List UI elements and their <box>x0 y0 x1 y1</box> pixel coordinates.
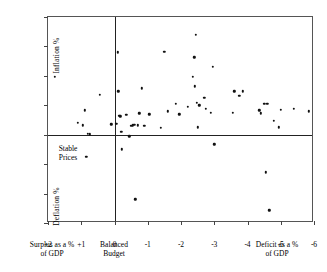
data-point <box>195 33 197 35</box>
data-point <box>238 95 240 97</box>
y-axis-tick <box>44 46 48 47</box>
data-point <box>148 113 150 115</box>
x-axis-tick <box>214 221 215 225</box>
x-axis-tick-label: -1 <box>145 241 151 249</box>
data-point <box>203 97 205 99</box>
x-axis-tick-label: -2 <box>178 241 184 249</box>
data-point <box>213 143 215 145</box>
x-axis-tick <box>115 221 116 225</box>
caption-surplus-line2: of GDP <box>12 249 92 258</box>
data-point <box>137 124 139 126</box>
data-point <box>163 50 165 52</box>
data-point <box>278 126 280 128</box>
plot-frame: Inflation % Deflation % Stable Prices 16… <box>47 16 313 222</box>
data-point <box>121 148 123 150</box>
data-point <box>117 51 119 53</box>
data-point <box>133 124 135 126</box>
x-axis-tick <box>181 221 182 225</box>
balanced-budget-line <box>115 17 116 221</box>
y-axis-tick <box>44 17 48 18</box>
x-axis-tick <box>314 221 315 225</box>
data-point <box>98 94 100 96</box>
data-point <box>119 115 121 117</box>
x-axis-tick <box>248 221 249 225</box>
x-axis-tick <box>281 221 282 225</box>
data-point <box>233 90 235 92</box>
data-point <box>120 131 122 133</box>
data-point <box>193 56 195 58</box>
y-axis-tick <box>44 76 48 77</box>
y-axis-tick <box>44 105 48 106</box>
data-point <box>125 114 127 116</box>
data-point <box>265 171 267 173</box>
data-point <box>231 111 233 113</box>
data-point <box>178 113 180 115</box>
x-axis-center-caption: Balanced Budget <box>86 240 142 258</box>
data-point <box>263 103 265 105</box>
data-point <box>191 75 193 77</box>
data-point <box>160 127 162 129</box>
plot-area: 1612840-4-8-12+2+10-1-2-3-4-5-6 <box>48 17 312 221</box>
data-point <box>141 87 143 89</box>
data-point <box>143 125 145 127</box>
data-point <box>82 124 84 126</box>
y-axis-tick <box>44 135 48 136</box>
data-point <box>211 66 213 68</box>
data-point <box>85 156 87 158</box>
data-point <box>77 122 79 124</box>
data-point <box>186 106 188 108</box>
data-point <box>268 209 270 211</box>
data-point <box>266 103 268 105</box>
y-axis-tick <box>44 194 48 195</box>
data-point <box>166 110 168 112</box>
x-axis-tick <box>148 221 149 225</box>
data-point <box>273 120 275 122</box>
data-point <box>117 90 119 92</box>
data-point <box>196 126 198 128</box>
caption-deficit-line2: of GDP <box>237 249 317 258</box>
x-axis-tick <box>48 221 49 225</box>
x-axis-tick <box>81 221 82 225</box>
caption-deficit-line1: Deficit as a % <box>237 240 317 249</box>
data-point <box>308 110 310 112</box>
data-point <box>260 112 262 114</box>
y-axis-tick <box>44 164 48 165</box>
data-point <box>198 104 200 106</box>
data-point <box>241 90 243 92</box>
x-axis-right-caption: Deficit as a % of GDP <box>237 240 317 258</box>
zero-inflation-line <box>48 135 312 136</box>
data-point <box>205 108 207 110</box>
data-point <box>194 85 196 87</box>
scatter-chart-figure: Inflation % Deflation % Stable Prices 16… <box>0 0 327 272</box>
data-point <box>53 75 55 77</box>
caption-balanced-line2: Budget <box>86 249 142 258</box>
caption-balanced-line1: Balanced <box>86 240 142 249</box>
data-point <box>280 108 282 110</box>
data-point <box>138 112 140 114</box>
data-point <box>293 108 295 110</box>
x-axis-left-caption: Surplus as a % of GDP <box>12 240 92 258</box>
data-point <box>134 198 136 200</box>
x-axis-tick-label: -3 <box>211 241 217 249</box>
data-point <box>83 109 85 111</box>
data-point <box>175 103 177 105</box>
data-point <box>210 111 212 113</box>
data-point <box>110 123 112 125</box>
caption-surplus-line1: Surplus as a % <box>12 240 92 249</box>
